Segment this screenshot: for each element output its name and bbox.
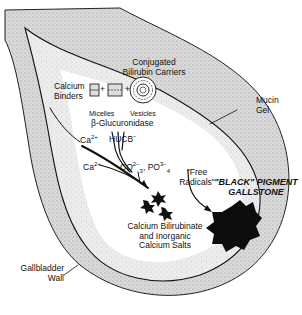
separator: , — [143, 162, 145, 172]
charge: 3− — [160, 161, 167, 167]
gallstone-diagram: Conjugated Bilirubin Carriers Calcium Bi… — [0, 0, 302, 315]
charge: 2− — [133, 161, 140, 167]
charge: 2+ — [91, 134, 98, 140]
conjugated-carriers-line2: Bilirubin Carriers — [104, 68, 204, 78]
subscript: 4 — [167, 168, 170, 174]
beta-glucuronidase-label: β-Glucuronidase — [91, 119, 154, 129]
gallstone-line1: "BLACK" PIGMENT — [210, 177, 302, 187]
charge: 2+ — [94, 161, 101, 167]
plus-sign-2: + — [125, 85, 130, 95]
gallbladder-wall-label: Gallbladder Wall — [14, 264, 64, 283]
mucin-line2: Gel — [256, 106, 279, 116]
hucb-label: HUCB− — [109, 135, 137, 145]
mucin-gel-label: Mucin Gel — [256, 96, 279, 115]
plus-sign-1: + — [100, 85, 105, 95]
vesicle-icon — [130, 77, 156, 103]
calcium-ion-label-1: Ca2+ — [80, 136, 98, 146]
calcium-binders-line2: Binders — [54, 92, 85, 102]
calcium-binders-label: Calcium Binders — [54, 82, 85, 101]
charge: − — [133, 133, 137, 139]
hucb-symbol: HUCB — [109, 134, 133, 144]
precipitate-label: Calcium Bilirubinate and Inorganic Calci… — [110, 222, 220, 251]
precipitate-line3: Calcium Salts — [110, 241, 220, 251]
carbonate-symbol: CO — [120, 162, 133, 172]
conjugated-carriers-label: Conjugated Bilirubin Carriers — [104, 58, 204, 77]
calcium-symbol: Ca — [83, 162, 94, 172]
calcium-symbol: Ca — [80, 135, 91, 145]
carbonate-phosphate-label: CO2−3, PO3−4 — [120, 163, 170, 173]
black-pigment-gallstone-label: "BLACK" PIGMENT GALLSTONE — [210, 177, 302, 197]
calcium-ion-label-2: Ca2+ — [83, 163, 101, 173]
gallstone-line2: GALLSTONE — [210, 187, 302, 197]
wall-line2: Wall — [14, 274, 64, 284]
phosphate-symbol: PO — [148, 162, 160, 172]
